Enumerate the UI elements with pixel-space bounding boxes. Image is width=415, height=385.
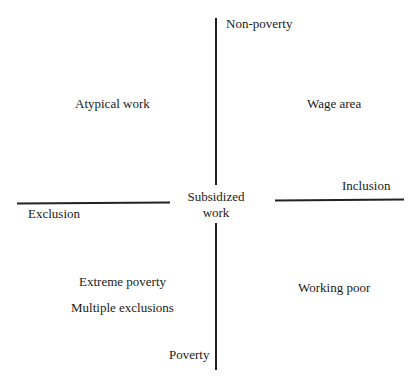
quadrant-top-right-label: Wage area	[307, 96, 361, 112]
quadrant-bottom-left-label-1: Extreme poverty	[79, 274, 166, 290]
center-label: Subsidized work	[186, 189, 246, 221]
axis-left-line	[17, 201, 170, 204]
axis-right-line	[275, 199, 404, 202]
axis-label-poverty: Poverty	[169, 347, 209, 363]
axis-label-non-poverty: Non-poverty	[226, 16, 292, 32]
quadrant-top-left-label: Atypical work	[75, 96, 150, 112]
center-label-line2: work	[186, 205, 246, 221]
center-label-line1: Subsidized	[186, 189, 246, 205]
quadrant-bottom-left-label-2: Multiple exclusions	[71, 300, 174, 316]
quadrant-bottom-right-label: Working poor	[298, 280, 370, 296]
axis-bottom-line	[215, 223, 217, 370]
axis-top-line	[215, 18, 217, 185]
axis-label-inclusion: Inclusion	[342, 178, 390, 194]
axis-label-exclusion: Exclusion	[28, 206, 80, 222]
